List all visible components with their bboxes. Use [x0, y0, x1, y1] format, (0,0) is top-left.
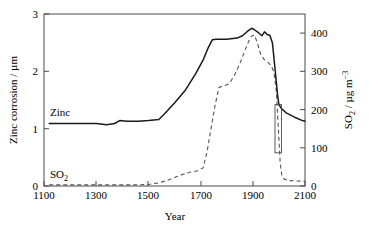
y-axis-right-ticks	[300, 33, 305, 186]
ytick-right-label-400: 400	[311, 27, 328, 39]
series-annotation-so2: SO2	[50, 168, 68, 183]
chart-figure: 1100 1300 1500 1700 1900 2100 0 1 2 3 0 …	[0, 0, 369, 232]
y-axis-left-ticks	[44, 14, 49, 186]
chart-plot-area: 1100 1300 1500 1700 1900 2100 0 1 2 3 0 …	[0, 0, 369, 232]
xtick-label-1300: 1300	[85, 189, 108, 201]
ytick-left-label-1: 1	[33, 123, 39, 135]
series-annotation-zinc: Zinc	[50, 106, 70, 118]
ytick-right-label-0: 0	[311, 180, 317, 192]
xtick-label-1900: 1900	[242, 189, 265, 201]
y-axis-left-title: Zinc corrosion / µm	[7, 56, 19, 144]
svg-text:SO2 / µg m−3: SO2 / µg m−3	[341, 71, 357, 129]
x-axis-ticks	[44, 181, 305, 186]
xtick-label-1500: 1500	[137, 189, 160, 201]
ytick-left-label-2: 2	[33, 65, 39, 77]
ytick-right-label-200: 200	[311, 104, 328, 116]
so2-annotation-base: SO	[50, 168, 64, 180]
right-title-base: SO	[342, 115, 354, 129]
ytick-left-label-3: 3	[33, 8, 39, 20]
ytick-left-label-0: 0	[33, 180, 39, 192]
right-title-unit: / µg m	[342, 79, 354, 111]
plot-frame	[44, 14, 305, 186]
so2-annotation-sub: 2	[64, 174, 68, 183]
series-line-zinc	[49, 28, 305, 124]
uncertainty-box	[275, 105, 282, 153]
ytick-right-label-300: 300	[311, 65, 328, 77]
series-line-so2	[49, 35, 305, 185]
x-axis-title: Year	[165, 210, 186, 222]
right-title-sup: −3	[341, 71, 350, 80]
y-axis-right-title: SO2 / µg m−3	[341, 71, 357, 129]
ytick-right-label-100: 100	[311, 142, 328, 154]
xtick-label-1700: 1700	[190, 189, 213, 201]
